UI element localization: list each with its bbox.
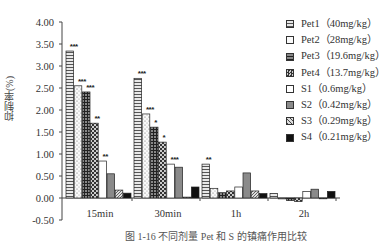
bar xyxy=(210,188,218,198)
bar xyxy=(295,198,303,202)
legend-swatch-icon xyxy=(286,101,294,109)
y-tick-label: 4.00 xyxy=(36,17,54,28)
bar xyxy=(150,127,158,198)
significance-marker: *** xyxy=(138,69,147,78)
bar xyxy=(159,142,167,198)
legend-label: S4（0.21mg/kg） xyxy=(301,129,377,145)
legend-item: S3（0.29mg/kg） xyxy=(286,113,385,129)
y-tick-label: 0.50 xyxy=(36,171,54,182)
legend-item: S2（0.42mg/kg） xyxy=(286,97,385,113)
bar xyxy=(123,193,131,198)
legend-label: Pet4（13.7mg/kg） xyxy=(301,65,385,81)
bar xyxy=(303,191,311,198)
legend-swatch-icon xyxy=(286,69,294,77)
bar xyxy=(142,114,150,198)
significance-marker: ** xyxy=(206,155,213,164)
bar xyxy=(175,167,183,198)
bar xyxy=(115,190,123,198)
legend-swatch-icon xyxy=(286,20,294,28)
legend-item: Pet3（19.6mg/kg） xyxy=(286,48,385,64)
bar xyxy=(74,86,82,198)
y-tick-label: 0.00 xyxy=(36,193,54,204)
y-tick-label: 2.00 xyxy=(36,105,54,116)
y-tick-label: 1.50 xyxy=(36,127,54,138)
bar xyxy=(259,194,267,198)
legend-item: Pet2（28mg/kg） xyxy=(286,32,385,48)
legend-item: Pet1（40mg/kg） xyxy=(286,16,385,32)
y-tick-label: 3.00 xyxy=(36,61,54,72)
bar xyxy=(251,191,259,198)
figure-caption: 图 1-16 不同剂量 Pet 和 S 的镇痛作用比较 xyxy=(125,228,307,243)
chart-legend: Pet1（40mg/kg）Pet2（28mg/kg）Pet3（19.6mg/kg… xyxy=(286,16,385,146)
bar xyxy=(82,92,90,198)
significance-marker: ** xyxy=(103,152,110,161)
legend-item: Pet4（13.7mg/kg） xyxy=(286,65,385,81)
x-tick-label: 2h xyxy=(299,208,310,219)
bar xyxy=(235,187,243,198)
legend-swatch-icon xyxy=(286,134,294,142)
significance-marker: * xyxy=(162,133,166,142)
bar xyxy=(107,174,115,198)
bar xyxy=(91,123,99,198)
significance-marker: *** xyxy=(70,42,79,51)
legend-swatch-icon xyxy=(286,117,294,125)
x-tick-label: 1h xyxy=(231,208,242,219)
y-tick-label: 3.50 xyxy=(36,39,54,50)
y-tick-label: -0.50 xyxy=(32,215,54,226)
significance-marker: *** xyxy=(171,155,180,164)
legend-swatch-icon xyxy=(286,53,294,61)
y-axis-label: 抑制率(%) xyxy=(2,76,16,121)
legend-label: Pet2（28mg/kg） xyxy=(301,32,377,48)
bar xyxy=(191,187,199,198)
significance-marker: *** xyxy=(86,83,95,92)
significance-marker: ** xyxy=(94,114,101,123)
bar xyxy=(278,198,286,199)
x-tick-label: 15min xyxy=(87,208,115,219)
bar xyxy=(66,51,74,198)
bar xyxy=(243,173,251,198)
legend-item: S1（0.6mg/kg） xyxy=(286,81,385,97)
legend-label: Pet3（19.6mg/kg） xyxy=(301,48,385,64)
bar xyxy=(99,161,107,198)
bar xyxy=(218,193,226,198)
bar xyxy=(183,197,191,198)
bar xyxy=(202,164,210,198)
bar xyxy=(286,198,294,201)
bar xyxy=(327,191,335,198)
legend-label: S3（0.29mg/kg） xyxy=(301,113,377,129)
legend-label: Pet1（40mg/kg） xyxy=(301,16,377,32)
legend-label: S2（0.42mg/kg） xyxy=(301,97,377,113)
significance-marker: *** xyxy=(146,105,155,114)
bar xyxy=(270,194,278,198)
legend-swatch-icon xyxy=(286,85,294,93)
legend-label: S1（0.6mg/kg） xyxy=(301,81,372,97)
bar xyxy=(134,78,142,198)
y-tick-label: 2.50 xyxy=(36,83,54,94)
legend-swatch-icon xyxy=(286,36,294,44)
significance-marker: * xyxy=(154,118,158,127)
bar xyxy=(167,164,175,198)
bar xyxy=(311,189,319,198)
y-tick-label: 1.00 xyxy=(36,149,54,160)
bar xyxy=(227,191,235,198)
x-tick-label: 30min xyxy=(155,208,183,219)
bar xyxy=(319,198,327,199)
legend-item: S4（0.21mg/kg） xyxy=(286,129,385,145)
